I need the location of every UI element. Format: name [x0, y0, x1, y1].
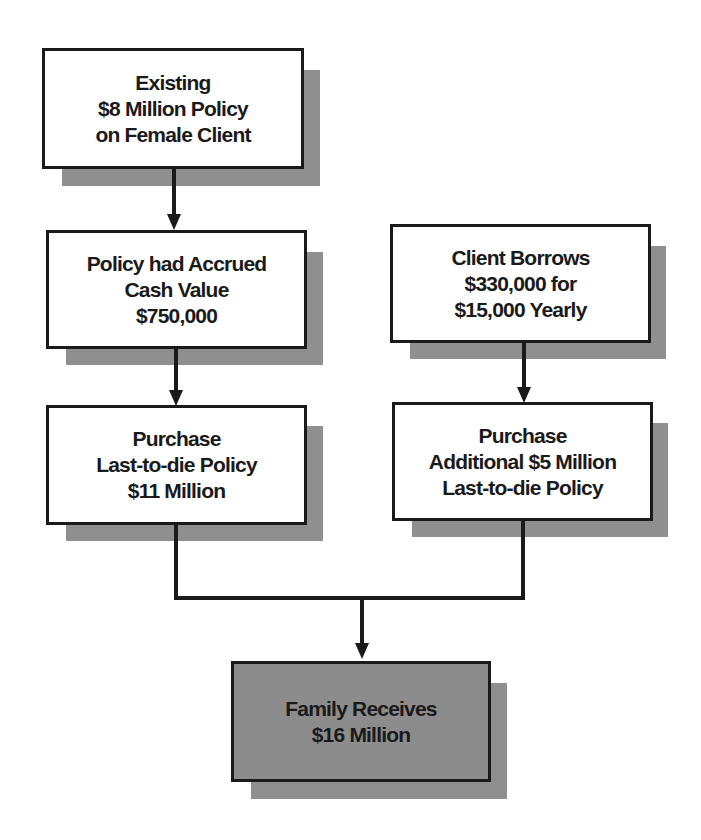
connector-line: [360, 598, 364, 644]
connector-line: [522, 343, 526, 388]
node-text: $15,000 Yearly: [454, 297, 586, 323]
node-text: Policy had Accrued: [87, 251, 267, 277]
cash-value-node: Policy had Accrued Cash Value $750,000: [46, 230, 307, 349]
node-text: $16 Million: [312, 722, 411, 748]
node-text: $8 Million Policy: [98, 96, 248, 122]
client-borrows-node: Client Borrows $330,000 for $15,000 Year…: [390, 224, 651, 343]
node-text: $750,000: [136, 303, 217, 329]
arrowhead-icon: [517, 387, 531, 403]
node-text: Cash Value: [124, 277, 228, 303]
node-text: Additional $5 Million: [429, 449, 616, 475]
node-text: Last-to-die Policy: [96, 452, 257, 478]
connector-line: [521, 521, 525, 600]
node-text: Last-to-die Policy: [442, 475, 603, 501]
node-text: Existing: [135, 70, 210, 96]
node-text: Purchase: [478, 423, 566, 449]
node-text: $11 Million: [128, 478, 225, 504]
arrowhead-icon: [169, 390, 183, 406]
connector-line: [172, 169, 176, 216]
existing-policy-node: Existing $8 Million Policy on Female Cli…: [42, 48, 304, 169]
node-text: on Female Client: [95, 122, 250, 148]
node-text: $330,000 for: [465, 271, 577, 297]
node-text: Client Borrows: [451, 245, 589, 271]
connector-line: [174, 525, 178, 600]
arrowhead-icon: [355, 643, 369, 659]
purchase-11m-node: Purchase Last-to-die Policy $11 Million: [46, 405, 307, 525]
purchase-5m-node: Purchase Additional $5 Million Last-to-d…: [392, 402, 653, 521]
family-receives-node: Family Receives $16 Million: [231, 661, 491, 782]
node-text: Family Receives: [285, 696, 436, 722]
connector-line: [174, 596, 525, 600]
arrowhead-icon: [167, 214, 181, 230]
connector-line: [174, 349, 178, 391]
node-text: Purchase: [132, 426, 220, 452]
